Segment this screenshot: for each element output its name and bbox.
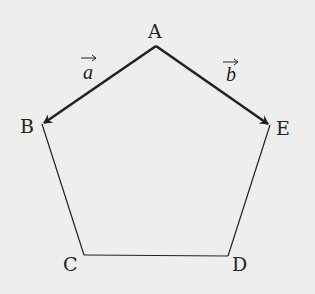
vertex-label-a: A — [148, 22, 162, 41]
edge-bc — [42, 124, 84, 255]
vertex-label-e: E — [276, 119, 290, 138]
vector-b-arrow — [156, 46, 268, 124]
vertex-label-b: B — [20, 117, 34, 136]
vertex-label-d: D — [232, 255, 247, 274]
pentagon-figure — [0, 0, 315, 294]
vector-a-arrow — [44, 46, 156, 123]
edge-de — [228, 125, 270, 256]
vertex-label-c: C — [63, 255, 78, 274]
vector-label-b: b — [226, 64, 236, 84]
edge-cd — [84, 255, 228, 256]
pentagon-diagram: A B C D E a b — [0, 0, 315, 294]
vector-label-a: a — [83, 62, 93, 82]
